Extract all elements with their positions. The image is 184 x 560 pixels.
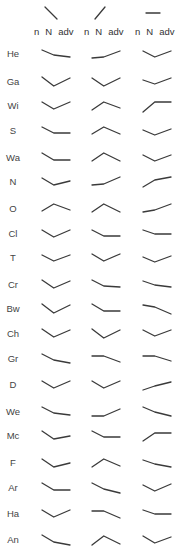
column-header-label: N xyxy=(45,26,52,37)
sparkline-glyph xyxy=(40,301,72,317)
row-label: Ha xyxy=(0,508,26,519)
row-label: O xyxy=(0,203,26,214)
row-label: Cl xyxy=(0,228,26,239)
sparkline-glyph xyxy=(90,201,122,217)
sparkline-glyph xyxy=(40,532,72,548)
sparkline-glyph xyxy=(40,277,72,293)
sparkline-glyph xyxy=(141,506,173,522)
sparkline-glyph xyxy=(90,277,122,293)
sparkline-glyph xyxy=(90,46,122,62)
row-label: Ch xyxy=(0,328,26,339)
sparkline-glyph xyxy=(40,226,72,242)
sparkline-glyph xyxy=(40,123,72,139)
row-label: He xyxy=(0,48,26,59)
sparkline-glyph xyxy=(141,150,173,166)
row-label: T xyxy=(0,252,26,263)
sparkline-glyph xyxy=(90,74,122,90)
sparkline-glyph xyxy=(40,428,72,444)
header-reference-rising-icon xyxy=(94,6,112,20)
header-reference-falling-icon xyxy=(44,6,62,20)
column-header-label: N xyxy=(95,26,102,37)
sparkline-glyph xyxy=(40,74,72,90)
sparkline-glyph xyxy=(90,123,122,139)
sparkline-glyph xyxy=(40,46,72,62)
sparkline-glyph xyxy=(40,377,72,393)
sparkline-glyph xyxy=(40,201,72,217)
sparkline-glyph xyxy=(40,351,72,367)
column-header-label: adv xyxy=(108,26,123,37)
sparkline-glyph xyxy=(40,404,72,420)
column-header-label: n xyxy=(34,26,39,37)
sparkline-glyph xyxy=(90,428,122,444)
sparkline-glyph xyxy=(40,480,72,496)
row-label: An xyxy=(0,534,26,545)
sparkline-glyph xyxy=(90,326,122,342)
sparkline-glyph xyxy=(90,377,122,393)
sparkline-glyph xyxy=(40,174,72,190)
row-label: Cr xyxy=(0,279,26,290)
sparkline-glyph xyxy=(40,250,72,266)
column-header-label: adv xyxy=(58,26,73,37)
column-header-label: adv xyxy=(159,26,174,37)
row-label: Gr xyxy=(0,353,26,364)
sparkline-glyph xyxy=(90,250,122,266)
sparkline-glyph xyxy=(90,98,122,114)
row-label: S xyxy=(0,125,26,136)
sparkline-glyph xyxy=(141,250,173,266)
sparkline-glyph xyxy=(40,506,72,522)
row-label: Wa xyxy=(0,152,26,163)
sparkline-glyph xyxy=(141,226,173,242)
sparkline-glyph xyxy=(141,46,173,62)
row-label: F xyxy=(0,457,26,468)
sparkline-glyph xyxy=(141,201,173,217)
row-label: N xyxy=(0,176,26,187)
sparkline-glyph xyxy=(141,123,173,139)
sparkline-glyph xyxy=(90,150,122,166)
column-header-label: n xyxy=(135,26,140,37)
sparkline-glyph xyxy=(90,532,122,548)
header-reference-flat-icon xyxy=(145,6,163,20)
sparkline-glyph xyxy=(141,277,173,293)
sparkline-glyph xyxy=(141,98,173,114)
sparkline-glyph xyxy=(141,480,173,496)
sparkline-glyph xyxy=(90,506,122,522)
column-header-label: N xyxy=(146,26,153,37)
column-header-labels: nNadv xyxy=(34,26,74,37)
sparkline-glyph xyxy=(141,532,173,548)
row-label: Bw xyxy=(0,303,26,314)
sparkline-glyph xyxy=(141,74,173,90)
column-header-label: n xyxy=(84,26,89,37)
sparkline-glyph xyxy=(40,455,72,471)
sparkline-glyph xyxy=(141,404,173,420)
sparkline-glyph xyxy=(90,174,122,190)
sparkline-glyph xyxy=(141,377,173,393)
row-label: Mc xyxy=(0,430,26,441)
sparkline-glyph xyxy=(141,351,173,367)
row-label: D xyxy=(0,379,26,390)
sparkline-glyph xyxy=(90,301,122,317)
sparkline-glyph xyxy=(40,98,72,114)
sparkline-glyph xyxy=(90,455,122,471)
row-label: Wi xyxy=(0,100,26,111)
sparkline-glyph xyxy=(141,301,173,317)
row-label: We xyxy=(0,406,26,417)
sparkline-glyph xyxy=(90,404,122,420)
sparkline-glyph xyxy=(141,326,173,342)
sparkline-glyph xyxy=(90,480,122,496)
sparkline-glyph xyxy=(90,226,122,242)
sparkline-glyph xyxy=(40,326,72,342)
column-header-labels: nNadv xyxy=(135,26,175,37)
sparkline-glyph xyxy=(90,351,122,367)
row-label: Ga xyxy=(0,76,26,87)
sparkline-glyph xyxy=(141,428,173,444)
row-label: Ar xyxy=(0,482,26,493)
sparkline-glyph xyxy=(40,150,72,166)
sparkline-glyph xyxy=(141,174,173,190)
column-header-labels: nNadv xyxy=(84,26,124,37)
sparkline-glyph xyxy=(141,455,173,471)
